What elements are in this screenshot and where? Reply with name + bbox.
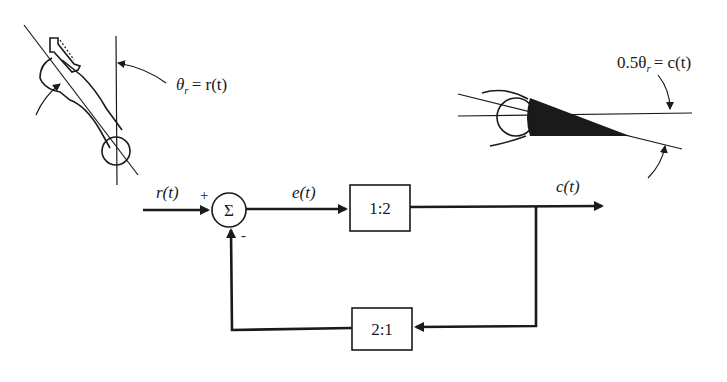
- upper-arc: [482, 91, 528, 99]
- feedback-path-left: [231, 230, 352, 330]
- input-arm-figure: θr= r(t): [24, 25, 227, 185]
- block-diagram: r(t) Σ + - e(t) 1:2 c(t) 2:1: [143, 177, 602, 350]
- lower-arc: [490, 136, 526, 146]
- arm-body: [40, 58, 122, 148]
- arm-handle: [50, 38, 80, 72]
- theta-angle-arrow: [118, 63, 166, 83]
- output-signal-line: [410, 206, 602, 207]
- output-angle-label: 0.5θr= c(t): [617, 53, 691, 74]
- output-signal-label: c(t): [556, 177, 580, 196]
- arm-centerline: [24, 25, 138, 175]
- feedback-path-right: [416, 207, 536, 327]
- output-angle-arrow-top: [658, 75, 670, 109]
- arm-pivot-circle: [102, 137, 130, 165]
- pointer-wedge: [527, 98, 630, 136]
- summing-symbol: Σ: [224, 201, 234, 220]
- plus-sign: +: [200, 187, 208, 203]
- output-angle-arrow-bottom: [648, 146, 665, 178]
- input-signal-label: r(t): [156, 183, 179, 202]
- minus-sign: -: [241, 227, 246, 243]
- error-signal-label: e(t): [292, 183, 316, 202]
- feedback-gain-label: 2:1: [371, 320, 393, 339]
- theta-r-label: θr= r(t): [176, 75, 227, 96]
- vertical-reference-line: [116, 36, 117, 185]
- arm-pointer-arrow: [36, 84, 60, 115]
- forward-gain-label: 1:2: [369, 199, 391, 218]
- output-pointer-figure: 0.5θr= c(t): [458, 53, 692, 178]
- control-system-diagram: θr= r(t) 0.5θr= c(t) r(t) Σ + -: [0, 0, 727, 382]
